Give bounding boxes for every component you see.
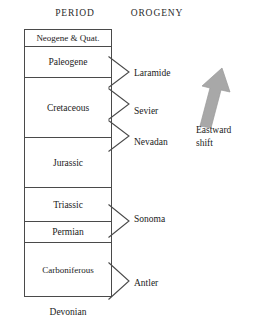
orogeny-label: Sevier (134, 106, 158, 116)
orogeny-chevron-icon (108, 56, 130, 88)
eastward-shift-line2: shift (196, 137, 256, 150)
period-label: Permian (52, 227, 84, 237)
column-header-period: PERIOD (38, 8, 112, 18)
eastward-shift-arrow-icon (196, 66, 244, 128)
period-label: Cretaceous (47, 103, 89, 113)
column-header-orogeny: OROGENY (121, 8, 193, 18)
orogeny-label: Antler (134, 278, 158, 288)
orogeny-label: Laramide (134, 68, 170, 78)
orogeny-label: Nevadan (134, 137, 168, 147)
period-column-table: Neogene & Quat.PaleogeneCretaceousJurass… (24, 29, 112, 297)
period-label: Triassic (53, 200, 83, 210)
orogeny-chevron-icon (108, 88, 130, 120)
orogeny-chevron-icon (108, 120, 130, 152)
period-row: Jurassic (25, 138, 111, 188)
eastward-shift-label: Eastward shift (196, 124, 256, 149)
period-label: Devonian (50, 307, 87, 317)
orogeny-timescale-diagram: PERIOD OROGENY Neogene & Quat.PaleogeneC… (0, 0, 261, 326)
period-label: Carboniferous (42, 265, 94, 275)
period-label: Jurassic (53, 158, 83, 168)
period-row: Triassic (25, 188, 111, 222)
orogeny-label: Sonoma (134, 214, 165, 224)
eastward-shift-line1: Eastward (196, 124, 256, 137)
period-row: Permian (25, 222, 111, 243)
period-label: Neogene & Quat. (36, 33, 99, 43)
period-row: Neogene & Quat. (25, 30, 111, 47)
orogeny-chevron-icon (108, 204, 130, 238)
period-row: Carboniferous (25, 243, 111, 297)
period-row: Cretaceous (25, 78, 111, 138)
period-row: Paleogene (25, 47, 111, 78)
period-label: Paleogene (48, 57, 87, 67)
orogeny-chevron-icon (108, 262, 130, 300)
period-row: Devonian (25, 297, 111, 326)
